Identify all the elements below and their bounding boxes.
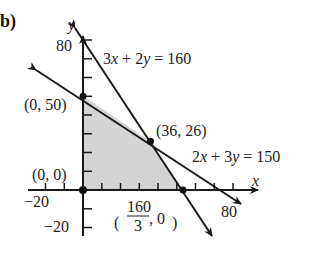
svg-text:): ) — [172, 214, 177, 232]
y-tick-80: 80 — [56, 37, 72, 54]
x-tick-80: 80 — [221, 203, 237, 220]
x-axis-label: x — [251, 172, 259, 189]
x-axis-ticks — [46, 183, 234, 190]
vertex-dot-0-50 — [80, 93, 87, 100]
y-axis-ticks — [83, 40, 92, 228]
x-tick-neg20: −20 — [24, 193, 49, 210]
vertex-label-0-50: (0, 50) — [24, 96, 67, 114]
svg-text:(: ( — [114, 214, 119, 232]
vertex-label-36-26: (36, 26) — [156, 122, 207, 140]
y-axis-label: y — [66, 16, 76, 34]
part-label: b) — [0, 11, 16, 32]
y-tick-neg20: −20 — [44, 218, 69, 235]
svg-text:160: 160 — [127, 198, 151, 215]
vertex-dot-36-26 — [147, 138, 154, 145]
vertex-label-160-3-0: ( 160 3 , 0 ) — [114, 198, 177, 234]
equation-label-2x-3y-150: 2x + 3y = 150 — [192, 148, 280, 166]
svg-text:3: 3 — [134, 217, 142, 234]
linear-programming-graph: b) y x 80 −20 −2 — [0, 0, 314, 259]
vertex-dot-0-0 — [79, 186, 87, 194]
vertex-label-0-0: (0, 0) — [32, 166, 67, 184]
svg-text:, 0: , 0 — [149, 210, 165, 227]
equation-label-3x-2y-160: 3x + 2y = 160 — [103, 50, 191, 68]
vertex-dot-160-3-0 — [180, 187, 187, 194]
